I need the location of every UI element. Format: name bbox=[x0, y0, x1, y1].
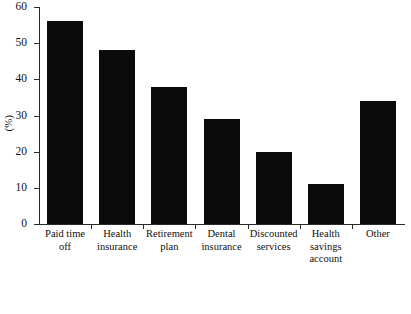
bar bbox=[308, 184, 344, 224]
x-axis-category-label: Paid time off bbox=[39, 228, 91, 253]
y-tick-label-20: 20 bbox=[16, 146, 28, 158]
x-axis-category-label: Dental insurance bbox=[195, 228, 247, 253]
y-tick-10: 10 bbox=[34, 188, 39, 189]
bar bbox=[204, 119, 240, 224]
plot-area: 0102030405060 bbox=[39, 7, 404, 224]
y-tick-label-30: 30 bbox=[16, 110, 28, 122]
bar bbox=[99, 50, 135, 224]
y-tick-30: 30 bbox=[34, 116, 39, 117]
x-axis-category-label: Discounted services bbox=[248, 228, 300, 253]
x-axis-category-label: Retirement plan bbox=[143, 228, 195, 253]
bar bbox=[151, 87, 187, 224]
y-tick-label-10: 10 bbox=[16, 182, 28, 194]
x-axis-category-label: Health savings account bbox=[300, 228, 352, 266]
x-axis-line bbox=[39, 224, 405, 225]
y-tick-label-0: 0 bbox=[21, 218, 27, 230]
y-tick-60: 60 bbox=[34, 7, 39, 8]
bar-chart: (%) 0102030405060 Paid time offHealth in… bbox=[0, 0, 411, 314]
y-axis-line bbox=[39, 7, 40, 225]
x-axis-category-label: Other bbox=[352, 228, 404, 241]
y-tick-label-50: 50 bbox=[16, 37, 28, 49]
y-tick-50: 50 bbox=[34, 43, 39, 44]
bar bbox=[47, 21, 83, 224]
y-tick-label-60: 60 bbox=[16, 1, 28, 13]
x-axis-category-label: Health insurance bbox=[91, 228, 143, 253]
bar bbox=[256, 152, 292, 224]
y-tick-40: 40 bbox=[34, 79, 39, 80]
bar bbox=[360, 101, 396, 224]
y-tick-0: 0 bbox=[34, 224, 39, 225]
y-axis-title: (%) bbox=[3, 116, 14, 132]
y-tick-label-40: 40 bbox=[16, 74, 28, 86]
y-tick-20: 20 bbox=[34, 152, 39, 153]
